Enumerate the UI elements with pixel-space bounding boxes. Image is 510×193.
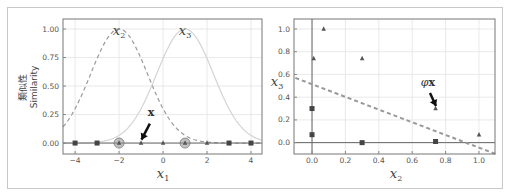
y-tick-label: 0.0 (278, 138, 290, 147)
x-tick-label: −2 (114, 156, 125, 165)
y-axis-label: 類似性Similarity (17, 65, 39, 108)
phi-x-annotation: φx (421, 76, 436, 89)
x-tick-label: 4 (249, 156, 254, 165)
y-tick-label: 0.75 (42, 53, 59, 62)
y-tick-label: 1.0 (278, 25, 290, 34)
x-axis-label: x1 (157, 166, 169, 183)
x-tick-label: 1.0 (473, 156, 485, 165)
x-tick-label: 0.0 (306, 156, 318, 165)
x-annotation: x (148, 106, 155, 119)
y-tick-label: 1.00 (42, 25, 59, 34)
square-marker (73, 141, 78, 146)
x-tick-label: 0.6 (406, 156, 418, 165)
y-tick-label: 0.4 (278, 93, 290, 102)
y-axis-label-ja: 類似性 (17, 74, 28, 101)
y-tick-label: 0.25 (42, 110, 59, 119)
square-marker (360, 140, 365, 145)
y-tick-label: 0.2 (278, 115, 290, 124)
triangle-marker (477, 132, 482, 137)
square-marker (249, 141, 254, 146)
x-tick-label: 0.8 (440, 156, 452, 165)
triangle-marker (321, 26, 326, 31)
square-marker (310, 132, 315, 137)
x-tick-label: −4 (70, 156, 81, 165)
right-chart: 0.00.20.40.60.81.00.00.20.40.60.81.0x2x3… (271, 19, 496, 183)
left-chart: −4−20240.000.250.500.751.00x1類似性Similari… (17, 19, 262, 183)
y-axis-label-en: Similarity (29, 65, 39, 108)
x-axis-label: x2 (390, 166, 402, 183)
triangle-marker (433, 106, 438, 111)
triangle-marker (360, 56, 365, 61)
y-tick-label: 0.50 (42, 82, 59, 91)
plot-frame (294, 19, 495, 154)
y-tick-label: 0.8 (278, 47, 290, 56)
square-marker (433, 139, 438, 144)
x-tick-label: 0 (161, 156, 166, 165)
x-tick-label: 0.2 (339, 156, 351, 165)
x3-curve-label: x3 (179, 23, 191, 40)
square-marker (95, 141, 100, 146)
square-marker (227, 141, 232, 146)
plot-frame (63, 19, 262, 154)
square-marker (310, 106, 315, 111)
x2-curve-label: x2 (113, 23, 125, 40)
figure-canvas: −4−20240.000.250.500.751.00x1類似性Similari… (0, 0, 510, 193)
y-tick-label: 0.00 (42, 139, 59, 148)
y-tick-label: 0.6 (278, 70, 290, 79)
x-tick-label: 0.4 (373, 156, 385, 165)
x-tick-label: 2 (205, 156, 210, 165)
